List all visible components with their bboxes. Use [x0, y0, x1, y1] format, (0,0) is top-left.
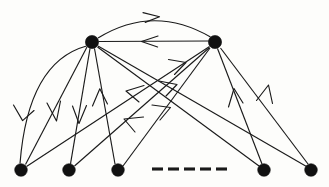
edge-bottom-5-to-top-left: [98, 46, 307, 167]
node-top-left[interactable]: [85, 35, 98, 48]
edge-bottom-2-to-top-right: [75, 48, 210, 167]
node-bottom-4[interactable]: [258, 164, 271, 177]
node-bottom-5[interactable]: [305, 164, 318, 177]
edge-group: [14, 13, 309, 167]
node-bottom-1[interactable]: [15, 164, 28, 177]
edge-bottom-3-to-top-left: [95, 49, 116, 165]
arrowhead-arc-left: [14, 105, 35, 121]
arrowhead-bottom-3-to-top-left: [93, 89, 108, 106]
arrowhead-bottom-5-to-top-right: [257, 85, 273, 104]
edge-bottom-4-to-top-right: [218, 49, 263, 165]
graph-canvas: [0, 0, 329, 187]
arrowhead-bottom-3-to-top-right: [152, 105, 171, 120]
arrowhead-bottom-4-to-top-right: [229, 89, 244, 108]
edge-arc-top-left-to-top-right: [98, 21, 211, 38]
edge-bottom-2-to-top-left: [71, 49, 91, 164]
edge-arc-top-left-to-bottom-1: [20, 46, 87, 164]
edge-bottom-4-to-top-left: [98, 47, 260, 166]
node-top-right[interactable]: [208, 35, 221, 48]
edge-top-right-to-top-left: [99, 41, 210, 42]
graph-figure: [0, 0, 329, 187]
node-bottom-2[interactable]: [63, 164, 76, 177]
node-bottom-3[interactable]: [112, 164, 125, 177]
